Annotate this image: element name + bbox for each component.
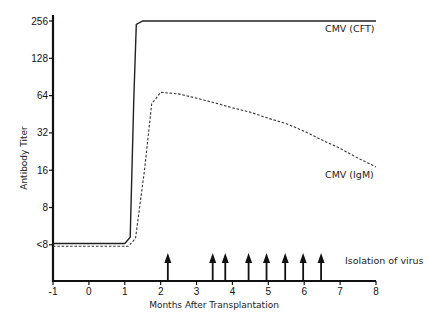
y-tick-label: 64	[37, 90, 49, 101]
x-tick-label: 4	[230, 286, 236, 297]
virus-isolation-arrows	[164, 253, 324, 281]
virus-isolation-arrow	[282, 253, 289, 281]
virus-isolation-arrow	[164, 253, 171, 281]
y-axis-ticks: <88163264128256	[31, 16, 53, 251]
series-label-cmv-cft: CMV (CFT)	[325, 23, 375, 34]
virus-isolation-arrow	[209, 253, 216, 281]
y-tick-label: 8	[42, 202, 48, 213]
x-axis-title: Months After Transplantation	[149, 300, 279, 310]
virus-isolation-label: Isolation of virus	[345, 255, 424, 266]
y-tick-label: 256	[31, 16, 48, 27]
x-tick-label: 1	[122, 286, 128, 297]
x-tick-label: 5	[266, 286, 272, 297]
x-tick-label: 3	[194, 286, 200, 297]
x-tick-label: -1	[49, 286, 58, 297]
x-tick-label: 2	[158, 286, 164, 297]
y-tick-label: 32	[37, 127, 49, 138]
y-tick-label: 16	[37, 165, 49, 176]
series-label-cmv-igm: CMV (IgM)	[325, 169, 374, 180]
series-line-cmv-cft	[53, 21, 376, 244]
antibody-titer-chart: <88163264128256 -1012345678 CMV (CFT) CM…	[0, 0, 438, 329]
x-tick-label: 6	[301, 286, 307, 297]
x-tick-label: 8	[373, 286, 379, 297]
y-axis-title: Antibody Titer	[19, 126, 29, 190]
virus-isolation-arrow	[263, 253, 270, 281]
x-tick-label: 0	[86, 286, 92, 297]
x-axis-ticks: -1012345678	[49, 281, 380, 297]
y-tick-label: 128	[31, 53, 48, 64]
virus-isolation-arrow	[222, 253, 229, 281]
virus-isolation-arrow	[318, 253, 325, 281]
virus-isolation-arrow	[300, 253, 307, 281]
virus-isolation-arrow	[245, 253, 252, 281]
y-tick-label: <8	[37, 239, 49, 250]
x-tick-label: 7	[337, 286, 343, 297]
